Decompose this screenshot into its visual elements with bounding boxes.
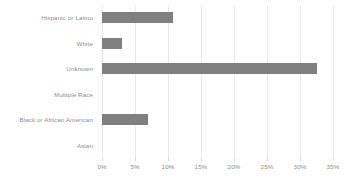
tick-mark: [102, 158, 103, 161]
category-label: Asian: [0, 133, 98, 159]
category-label: Unknown: [0, 56, 98, 82]
category-label-text: Multiple Race: [54, 91, 93, 98]
tick-label: 10%: [162, 163, 175, 170]
category-label-text: Black or African American: [19, 116, 93, 123]
bar-row: [102, 56, 333, 82]
tick-label: 30%: [294, 163, 307, 170]
bar-row: [102, 31, 333, 57]
bar-row: [102, 5, 333, 31]
tick-mark: [267, 158, 268, 161]
bar-row: [102, 82, 333, 108]
category-axis: Hispanic or LatinoWhiteUnknownMultiple R…: [0, 5, 98, 158]
tick-mark: [234, 158, 235, 161]
tick-label: 20%: [228, 163, 241, 170]
tick-label: 35%: [327, 163, 340, 170]
category-label-text: Asian: [77, 142, 93, 149]
gridline: [333, 5, 334, 158]
bar[interactable]: [102, 12, 173, 23]
tick-mark: [168, 158, 169, 161]
bars-layer: [102, 5, 333, 158]
bar[interactable]: [102, 114, 148, 125]
category-label-text: Unknown: [66, 65, 93, 72]
tick-label: 15%: [195, 163, 208, 170]
tick-mark: [201, 158, 202, 161]
category-label: Hispanic or Latino: [0, 5, 98, 31]
tick-mark: [300, 158, 301, 161]
bar-row: [102, 133, 333, 159]
bar[interactable]: [102, 38, 122, 49]
bar[interactable]: [102, 63, 317, 74]
tick-mark: [135, 158, 136, 161]
category-label: White: [0, 31, 98, 57]
category-label: Multiple Race: [0, 82, 98, 108]
tick-mark: [333, 158, 334, 161]
category-label: Black or African American: [0, 107, 98, 133]
bar-chart: Hispanic or LatinoWhiteUnknownMultiple R…: [0, 0, 355, 183]
tick-label: 0%: [97, 163, 106, 170]
tick-label: 25%: [261, 163, 274, 170]
plot-area: [102, 5, 333, 158]
category-label-text: White: [77, 40, 93, 47]
category-label-text: Hispanic or Latino: [41, 14, 93, 21]
bar-row: [102, 107, 333, 133]
tick-label: 5%: [130, 163, 139, 170]
value-axis: 0%5%10%15%20%25%30%35%: [102, 158, 333, 178]
